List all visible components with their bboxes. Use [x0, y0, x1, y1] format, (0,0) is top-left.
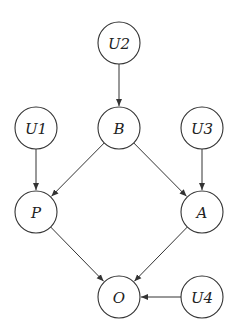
node-b: B — [98, 107, 140, 149]
node-u2: U2 — [98, 22, 140, 64]
node-u4: U4 — [181, 276, 223, 318]
node-p: P — [15, 191, 57, 233]
causal-diagram: U2U1BU3PAOU4 — [0, 0, 238, 335]
node-u1: U1 — [15, 107, 57, 149]
edge-a-to-o — [134, 227, 187, 281]
node-o: O — [98, 276, 140, 318]
node-u3: U3 — [181, 107, 223, 149]
edges-layer — [36, 64, 202, 297]
node-a: A — [181, 191, 223, 233]
edge-p-to-o — [51, 227, 104, 281]
arrow-icon — [134, 227, 187, 281]
node-label: O — [113, 289, 125, 307]
arrow-icon — [51, 143, 104, 196]
node-label: A — [195, 204, 208, 222]
node-label: U1 — [25, 120, 47, 138]
node-label: U3 — [191, 120, 213, 138]
node-label: B — [112, 120, 124, 138]
edge-b-to-p — [51, 143, 104, 196]
arrow-icon — [134, 143, 187, 196]
arrow-icon — [51, 227, 104, 281]
node-label: P — [30, 204, 42, 222]
edge-b-to-a — [134, 143, 187, 196]
node-label: U2 — [108, 35, 130, 53]
node-label: U4 — [191, 289, 213, 307]
